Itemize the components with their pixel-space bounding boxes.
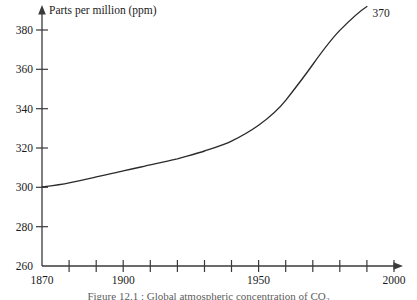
co2-curve [42,7,367,187]
x-axis-tick-labels: 1870 1900 1950 2000 [31,274,406,286]
co2-line-chart: 380 360 340 320 300 280 260 1870 [0,0,417,300]
y-tick-label: 340 [16,103,34,115]
endpoint-value-label: 370 [372,7,390,19]
x-tick-label: 1870 [31,274,54,286]
y-tick-label: 320 [16,142,34,154]
y-axis-title: Parts per million (ppm) [49,4,157,17]
y-tick-label: 360 [16,63,34,75]
y-axis-tick-labels: 380 360 340 320 300 280 260 [16,24,34,272]
figure-caption: Figure 12.1 : Global atmospheric concent… [0,290,417,300]
y-tick-label: 260 [16,260,34,272]
x-axis-arrow-icon [394,262,404,270]
y-tick-label: 300 [16,181,34,193]
x-tick-label: 1950 [247,274,270,286]
x-tick-label: 1900 [112,274,135,286]
y-tick-label: 280 [16,221,34,233]
y-axis-arrow-icon [38,5,46,15]
y-tick-label: 380 [16,24,34,36]
chart-figure: 380 360 340 320 300 280 260 1870 [0,0,417,300]
x-tick-label: 2000 [383,274,406,286]
